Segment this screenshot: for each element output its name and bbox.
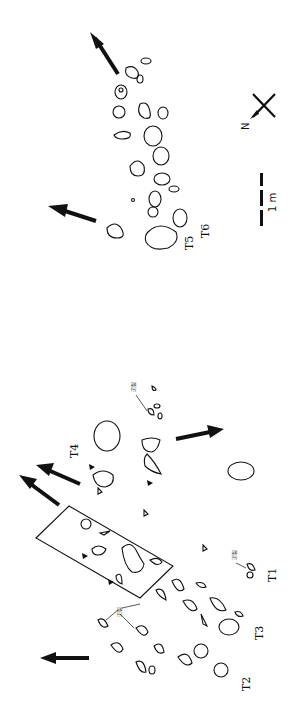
trackway-label-t6: T6 xyxy=(199,224,212,238)
mudcrack-label: 泥裂 xyxy=(231,550,238,560)
trackway-label-t1: T1 xyxy=(266,568,279,582)
annotation-leaders xyxy=(106,395,246,628)
upper-panel: T5 T6 N 1 m xyxy=(48,32,278,250)
arrowhead-markers xyxy=(82,464,153,585)
trackway-label-t4: T4 xyxy=(68,444,81,458)
direction-arrow-icon xyxy=(19,475,59,505)
footprint-outlines xyxy=(107,58,187,249)
direction-arrow-icon xyxy=(176,425,224,439)
trackway-diagram: T5 T6 N 1 m xyxy=(0,0,303,702)
footprint-outlines xyxy=(81,386,255,677)
mudcrack-label: 泥裂 xyxy=(130,382,137,392)
direction-arrow-icon xyxy=(90,32,118,74)
direction-arrow-icon xyxy=(48,204,96,221)
direction-arrow-icon xyxy=(36,463,80,484)
lower-panel: T4 xyxy=(19,382,279,691)
scale-bar-label: 1 m xyxy=(267,193,278,212)
north-arrow-icon xyxy=(250,94,275,119)
trackway-label-t5: T5 xyxy=(183,236,196,250)
trackway-label-t3: T3 xyxy=(253,626,266,640)
direction-arrow-icon xyxy=(40,652,89,664)
scale-bar xyxy=(260,173,263,226)
mudcrack-label: 泥裂 xyxy=(116,607,123,617)
trackway-label-t2: T2 xyxy=(240,677,253,691)
north-label: N xyxy=(240,123,251,130)
